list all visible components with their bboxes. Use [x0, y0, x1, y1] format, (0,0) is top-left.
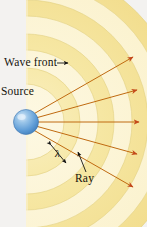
diagram-canvas [0, 0, 147, 227]
label-wave-front: Wave front [4, 57, 57, 69]
label-source: Source [1, 86, 34, 98]
label-wavelength: λ [55, 148, 60, 159]
wave-front-diagram: Wave front Source λ Ray [0, 0, 147, 227]
label-ray: Ray [75, 173, 94, 185]
source-sphere [14, 110, 39, 135]
source-highlight [17, 114, 25, 120]
